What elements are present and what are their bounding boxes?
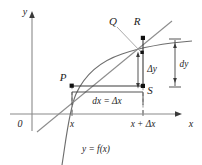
y-axis-label: y xyxy=(22,6,28,17)
differentials-figure: y x 0 x x + Δx P Q R S Δy dy dx = Δx y =… xyxy=(0,0,202,165)
delta-y-label: Δy xyxy=(146,64,157,74)
dy-label: dy xyxy=(180,59,190,69)
dy-arrowhead-top xyxy=(173,43,177,48)
point-label-p: P xyxy=(59,71,67,83)
point-s-marker xyxy=(141,84,145,88)
delta-y-arrow xyxy=(136,52,140,89)
q-leader-line xyxy=(117,27,141,52)
point-label-r: R xyxy=(133,15,141,27)
function-label: y = f(x) xyxy=(81,144,110,155)
tick-label-x-plus-delta-x: x + Δx xyxy=(130,119,157,129)
dy-arrowhead-bottom xyxy=(173,78,177,83)
tangent-line xyxy=(37,21,172,132)
point-label-q: Q xyxy=(109,15,117,27)
triangle-legs-group xyxy=(72,38,143,86)
figure-canvas: y x 0 x x + Δx P Q R S Δy dy dx = Δx y =… xyxy=(0,0,202,165)
point-p-marker xyxy=(70,84,74,88)
delta-y-arrowhead-top xyxy=(136,52,140,58)
y-axis-arrowhead xyxy=(29,11,35,18)
tick-marks-group xyxy=(72,110,143,116)
tick-label-x: x xyxy=(69,119,75,129)
points-group xyxy=(70,36,145,88)
x-axis-label: x xyxy=(188,118,194,129)
point-r-marker xyxy=(141,36,145,40)
point-q-marker xyxy=(140,51,143,54)
dx-label: dx = Δx xyxy=(92,96,122,106)
point-label-s: S xyxy=(147,84,153,96)
x-axis-arrowhead xyxy=(175,111,182,117)
origin-label: 0 xyxy=(18,118,23,129)
